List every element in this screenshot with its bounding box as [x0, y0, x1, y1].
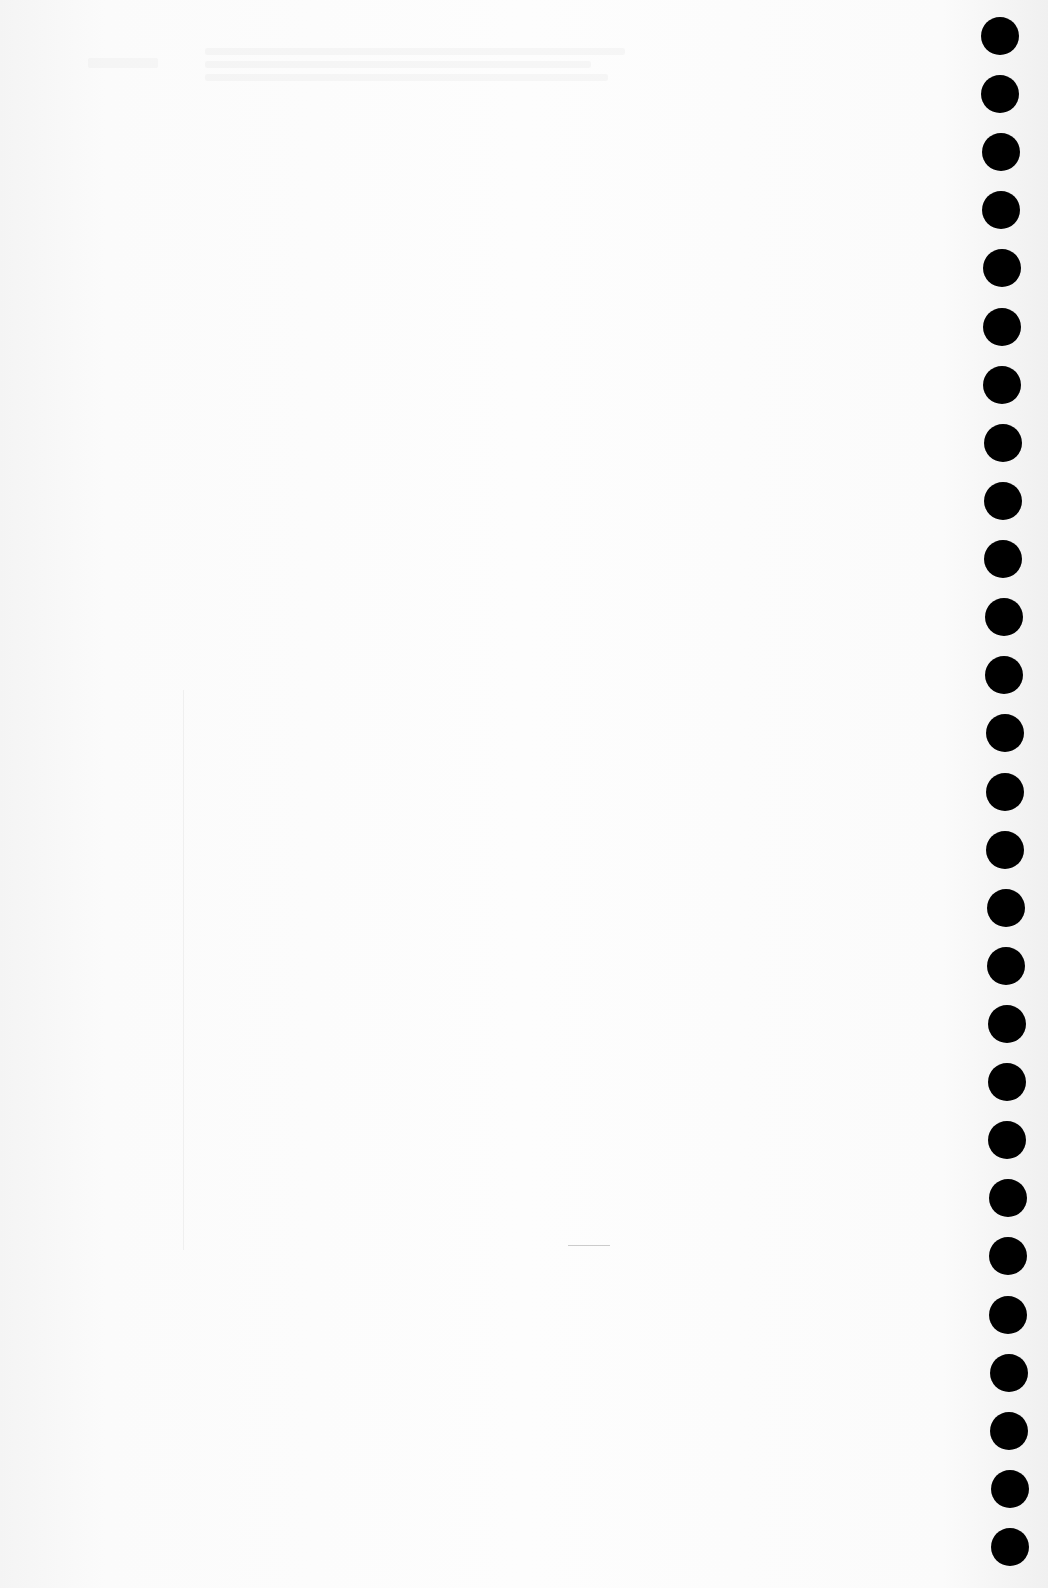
punch-hole: [986, 831, 1024, 869]
punch-hole: [984, 482, 1022, 520]
punch-hole: [985, 598, 1023, 636]
punch-hole: [982, 133, 1020, 171]
punch-hole: [985, 656, 1023, 694]
punch-hole: [983, 249, 1021, 287]
punch-hole: [984, 540, 1022, 578]
punch-hole: [989, 1179, 1027, 1217]
punch-hole: [981, 75, 1019, 113]
punch-hole: [983, 308, 1021, 346]
punch-hole: [991, 1470, 1029, 1508]
punch-hole: [988, 1063, 1026, 1101]
punch-hole: [987, 889, 1025, 927]
punch-hole: [990, 1354, 1028, 1392]
punch-hole: [990, 1412, 1028, 1450]
punch-hole: [988, 1005, 1026, 1043]
punch-hole: [988, 1121, 1026, 1159]
punch-hole: [989, 1237, 1027, 1275]
binding-holes: [0, 0, 1048, 1588]
punch-hole: [984, 424, 1022, 462]
punch-hole: [981, 17, 1019, 55]
punch-hole: [989, 1296, 1027, 1334]
punch-hole: [991, 1528, 1029, 1566]
punch-hole: [982, 191, 1020, 229]
punch-hole: [986, 714, 1024, 752]
blank-page: [0, 0, 1048, 1588]
punch-hole: [987, 947, 1025, 985]
punch-hole: [986, 773, 1024, 811]
punch-hole: [983, 366, 1021, 404]
